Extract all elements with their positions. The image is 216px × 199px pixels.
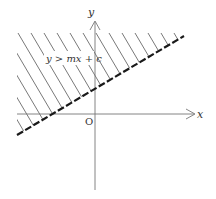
hatch-pattern bbox=[0, 33, 216, 135]
boundary-line bbox=[17, 36, 184, 135]
region-label: y > mx + c bbox=[45, 53, 102, 64]
origin-label: O bbox=[85, 116, 93, 127]
y-axis-label: y bbox=[87, 6, 95, 19]
inequality-diagram: y x O y > mx + c bbox=[0, 0, 216, 199]
x-axis-label: x bbox=[197, 108, 204, 121]
x-axis bbox=[17, 109, 195, 119]
y-axis bbox=[90, 21, 100, 190]
